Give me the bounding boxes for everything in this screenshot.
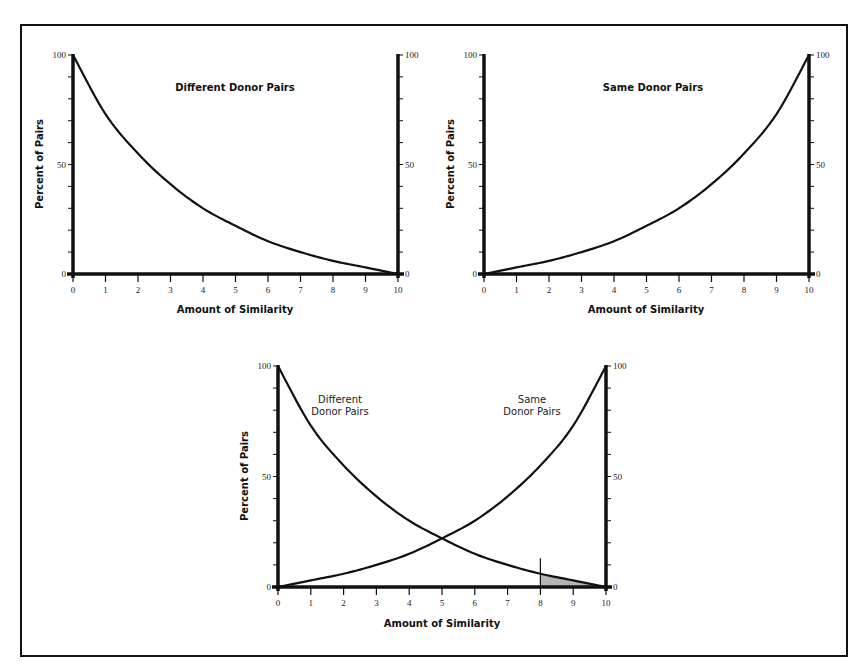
- figure-canvas: 050100050100012345678910 Different Donor…: [0, 0, 860, 672]
- x-tick-label: 2: [341, 598, 346, 608]
- y-tick-label-left: 0: [62, 269, 67, 279]
- x-tick-label: 8: [538, 598, 543, 608]
- x-tick-label: 6: [677, 285, 682, 295]
- chart3-label-same-line1: Same: [518, 394, 546, 405]
- x-tick-label: 6: [473, 598, 478, 608]
- x-tick-label: 0: [482, 285, 487, 295]
- x-tick-label: 1: [514, 285, 519, 295]
- y-tick-label-left: 0: [267, 582, 272, 592]
- y-tick-label-right: 0: [405, 269, 410, 279]
- y-tick-label-right: 100: [816, 50, 830, 60]
- y-tick-label-right: 0: [613, 582, 618, 592]
- x-tick-label: 9: [774, 285, 779, 295]
- x-tick-label: 10: [602, 598, 612, 608]
- x-tick-label: 2: [547, 285, 552, 295]
- y-tick-label-right: 50: [613, 472, 623, 482]
- x-tick-label: 5: [644, 285, 649, 295]
- x-tick-label: 7: [709, 285, 714, 295]
- x-tick-label: 1: [103, 285, 108, 295]
- x-tick-label: 9: [571, 598, 576, 608]
- y-tick-label-left: 50: [57, 160, 67, 170]
- chart2-xlabel: Amount of Similarity: [588, 304, 705, 315]
- chart3-ylabel: Percent of Pairs: [239, 431, 250, 521]
- y-tick-label-right: 0: [816, 269, 821, 279]
- y-tick-label-left: 50: [468, 160, 478, 170]
- y-tick-label-left: 100: [53, 50, 67, 60]
- chart3-label-different-line1: Different: [318, 394, 362, 405]
- x-tick-label: 8: [742, 285, 747, 295]
- y-tick-label-right: 100: [613, 361, 627, 371]
- x-tick-label: 5: [440, 598, 445, 608]
- chart3-label-different-line2: Donor Pairs: [311, 406, 368, 417]
- x-tick-label: 7: [505, 598, 510, 608]
- x-tick-label: 9: [363, 285, 368, 295]
- x-tick-label: 3: [374, 598, 379, 608]
- x-tick-label: 0: [71, 285, 76, 295]
- y-tick-label-right: 100: [405, 50, 419, 60]
- chart-combined: 050100050100012345678910: [258, 361, 628, 608]
- chart1-ylabel: Percent of Pairs: [34, 119, 45, 209]
- chart1-title: Different Donor Pairs: [175, 82, 294, 93]
- x-tick-label: 1: [309, 598, 314, 608]
- y-tick-label-left: 100: [464, 50, 478, 60]
- chart2-title: Same Donor Pairs: [603, 82, 703, 93]
- x-tick-label: 4: [407, 598, 412, 608]
- y-tick-label-right: 50: [816, 160, 826, 170]
- x-tick-label: 7: [298, 285, 303, 295]
- x-tick-label: 8: [331, 285, 336, 295]
- x-tick-label: 10: [805, 285, 815, 295]
- x-tick-label: 5: [233, 285, 238, 295]
- x-tick-label: 10: [394, 285, 404, 295]
- x-tick-label: 0: [276, 598, 281, 608]
- x-tick-label: 4: [612, 285, 617, 295]
- chart3-xlabel: Amount of Similarity: [384, 618, 501, 629]
- y-tick-label-left: 50: [262, 472, 272, 482]
- x-tick-label: 4: [201, 285, 206, 295]
- x-tick-label: 6: [266, 285, 271, 295]
- x-tick-label: 3: [168, 285, 173, 295]
- chart1-xlabel: Amount of Similarity: [177, 304, 294, 315]
- chart3-label-same-line2: Donor Pairs: [503, 406, 560, 417]
- x-tick-label: 2: [136, 285, 141, 295]
- y-tick-label-left: 100: [258, 361, 272, 371]
- x-tick-label: 3: [579, 285, 584, 295]
- y-tick-label-left: 0: [473, 269, 478, 279]
- y-tick-label-right: 50: [405, 160, 415, 170]
- chart2-ylabel: Percent of Pairs: [445, 119, 456, 209]
